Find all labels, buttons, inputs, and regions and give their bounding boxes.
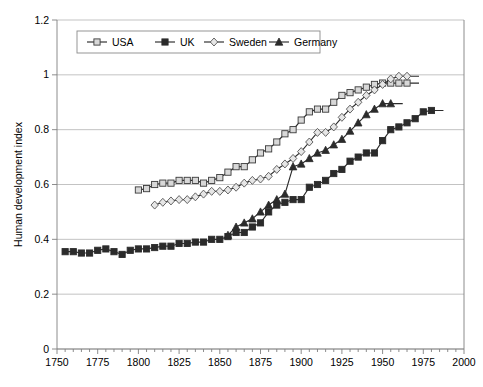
marker-usa-2	[152, 181, 158, 187]
marker-sweden-4	[184, 196, 191, 204]
y-tick-label-3: 0.6	[34, 178, 49, 190]
marker-uk-45	[428, 107, 434, 113]
marker-germany-13	[330, 141, 338, 148]
marker-uk-23	[249, 224, 255, 230]
marker-usa-4	[168, 180, 174, 186]
y-tick-label-4: 0.8	[34, 123, 49, 135]
legend-label-sweden: Sweden	[229, 36, 267, 48]
marker-uk-19	[217, 236, 223, 242]
marker-usa-17	[274, 139, 280, 145]
marker-uk-41	[396, 124, 402, 130]
y-tick-label-5: 1	[43, 68, 49, 80]
marker-usa-14	[249, 157, 255, 163]
x-tick-label-4: 1850	[208, 356, 232, 368]
marker-usa-28	[363, 84, 369, 90]
marker-uk-42	[404, 120, 410, 126]
marker-usa-19	[290, 127, 296, 133]
marker-uk-9	[135, 246, 141, 252]
marker-usa-13	[241, 164, 247, 170]
marker-germany-6	[273, 196, 281, 203]
marker-usa-10	[217, 175, 223, 181]
legend-marker-usa	[94, 39, 100, 45]
marker-uk-17	[200, 239, 206, 245]
marker-usa-15	[257, 150, 263, 156]
marker-sweden-31	[403, 72, 410, 80]
marker-uk-37	[363, 150, 369, 156]
marker-usa-3	[160, 180, 166, 186]
x-tick-label-6: 1900	[290, 356, 314, 368]
marker-germany-10	[306, 154, 314, 161]
marker-uk-38	[371, 150, 377, 156]
x-tick-label-8: 1950	[371, 356, 395, 368]
marker-sweden-16	[281, 160, 288, 168]
marker-sweden-11	[241, 179, 248, 187]
marker-uk-27	[282, 199, 288, 205]
gridlines	[57, 20, 464, 349]
y-tick-labels: 00.20.40.60.811.2	[34, 14, 49, 355]
marker-sweden-9	[224, 186, 231, 194]
marker-germany-1	[232, 223, 240, 230]
marker-uk-32	[323, 177, 329, 183]
marker-usa-1	[143, 186, 149, 192]
x-tick-label-10: 2000	[452, 356, 476, 368]
x-tick-label-7: 1925	[330, 356, 354, 368]
hdi-line-chart: 00.20.40.60.811.2 1750177518001825185018…	[0, 0, 483, 387]
x-tick-label-2: 1800	[127, 356, 151, 368]
marker-usa-6	[184, 177, 190, 183]
marker-usa-5	[176, 177, 182, 183]
marker-usa-18	[282, 131, 288, 137]
series-line-usa	[138, 83, 419, 190]
marker-uk-44	[420, 109, 426, 115]
marker-uk-18	[209, 236, 215, 242]
data-series	[62, 72, 443, 257]
marker-germany-12	[322, 146, 330, 153]
marker-usa-11	[225, 169, 231, 175]
y-tick-label-1: 0.2	[34, 288, 49, 300]
x-tick-label-9: 1975	[412, 356, 436, 368]
marker-uk-25	[266, 209, 272, 215]
marker-uk-30	[306, 184, 312, 190]
marker-germany-2	[240, 219, 248, 226]
series-sweden	[151, 72, 419, 209]
marker-uk-5	[103, 246, 109, 252]
marker-usa-8	[200, 180, 206, 186]
marker-usa-23	[323, 106, 329, 112]
marker-uk-6	[111, 249, 117, 255]
legend-marker-uk	[162, 39, 168, 45]
marker-uk-2	[78, 250, 84, 256]
y-axis-title: Human development index	[12, 121, 24, 247]
y-tick-label-6: 1.2	[34, 14, 49, 26]
marker-uk-43	[412, 116, 418, 122]
legend-label-germany: Germany	[294, 36, 338, 48]
marker-usa-33	[404, 80, 410, 86]
marker-sweden-3	[175, 196, 182, 204]
marker-sweden-2	[167, 197, 174, 205]
marker-usa-9	[209, 177, 215, 183]
marker-uk-13	[168, 243, 174, 249]
marker-usa-27	[355, 87, 361, 93]
marker-sweden-5	[192, 193, 199, 201]
y-axis-title-text: Human development index	[12, 121, 24, 247]
marker-usa-22	[314, 106, 320, 112]
marker-uk-28	[290, 196, 296, 202]
x-tick-labels: 1750177518001825185018751900192519501975…	[45, 356, 476, 368]
marker-germany-9	[297, 160, 305, 167]
series-germany	[224, 100, 403, 239]
marker-usa-0	[135, 187, 141, 193]
legend-label-uk: UK	[180, 36, 195, 48]
marker-usa-20	[298, 117, 304, 123]
marker-uk-1	[70, 249, 76, 255]
marker-usa-21	[306, 109, 312, 115]
marker-uk-39	[380, 138, 386, 144]
marker-usa-26	[347, 90, 353, 96]
marker-sweden-1	[159, 198, 166, 206]
chart-legend[interactable]: USAUKSwedenGermany	[77, 31, 338, 53]
legend-label-usa: USA	[112, 36, 134, 48]
marker-uk-24	[257, 220, 263, 226]
series-line-germany	[228, 104, 403, 236]
marker-uk-14	[176, 240, 182, 246]
marker-uk-16	[192, 239, 198, 245]
marker-uk-8	[127, 247, 133, 253]
marker-sweden-12	[249, 176, 256, 184]
marker-usa-24	[331, 99, 337, 105]
